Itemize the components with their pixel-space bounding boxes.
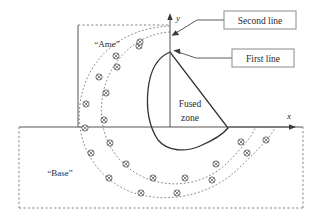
- marker-icon: [263, 137, 269, 143]
- marker-icon: [107, 140, 113, 146]
- marker-icon: [113, 53, 119, 59]
- weld-fusion-zone-diagram: y x Second line First line “Ame” “Base” …: [0, 0, 320, 224]
- marker-icon: [82, 125, 88, 131]
- figure-container: y x Second line First line “Ame” “Base” …: [0, 0, 320, 224]
- marker-icon: [83, 101, 89, 107]
- marker-icon: [106, 175, 112, 181]
- marker-icon: [238, 139, 244, 145]
- marker-icon: [244, 150, 250, 156]
- marker-icon: [96, 74, 102, 80]
- first-line-arrowhead: [173, 49, 180, 55]
- marker-icon: [182, 175, 188, 181]
- marker-icon: [209, 177, 215, 183]
- x-axis-arrowhead: [289, 124, 296, 129]
- isotherm-markers-inner: [101, 43, 244, 181]
- y-axis-label: y: [175, 13, 180, 23]
- marker-icon: [123, 161, 129, 167]
- callout-first-line-box[interactable]: First line: [232, 49, 294, 67]
- fused-zone-label-line2: zone: [181, 113, 199, 123]
- second-line-arrowhead: [172, 30, 180, 36]
- marker-icon: [114, 64, 120, 70]
- callout-first-line-leader: [173, 49, 232, 58]
- second-line-box-label: Second line: [238, 16, 283, 26]
- fused-zone-label-line1: Fused: [179, 99, 202, 109]
- marker-icon: [138, 190, 144, 196]
- second-line-leader-path: [176, 20, 224, 33]
- marker-icon: [150, 175, 156, 181]
- web-region-label: “Ame”: [94, 39, 119, 49]
- marker-icon: [101, 117, 107, 123]
- y-axis-arrowhead: [167, 13, 172, 20]
- marker-icon: [103, 90, 109, 96]
- marker-icon: [213, 161, 219, 167]
- base-region-label: “Base”: [47, 168, 72, 178]
- marker-icon: [88, 150, 94, 156]
- web-plate-outline: [78, 25, 170, 127]
- first-line-leader-path: [178, 52, 232, 58]
- marker-icon: [174, 190, 180, 196]
- callout-second-line-box[interactable]: Second line: [224, 11, 296, 29]
- first-line-box-label: First line: [246, 54, 280, 64]
- marker-icon: [137, 39, 143, 45]
- x-axis-label: x: [286, 111, 291, 121]
